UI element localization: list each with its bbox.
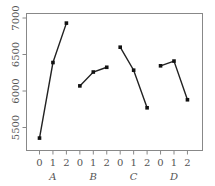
x-tick-label: 1	[90, 157, 96, 168]
y-tick-label: 6500	[10, 42, 21, 67]
x-tick-label: 1	[50, 157, 56, 168]
y-tick-label: 6000	[10, 78, 21, 103]
series-line-A	[40, 23, 67, 138]
y-tick-label: 5500	[10, 115, 21, 140]
series-line-C	[120, 47, 147, 108]
group-label: C	[130, 171, 138, 182]
data-point	[65, 21, 69, 25]
y-axis: 5500600065007000	[10, 5, 27, 140]
series-layer	[38, 21, 190, 140]
x-tick-label: 0	[117, 157, 123, 168]
x-tick-label: 2	[184, 157, 190, 168]
data-point	[105, 65, 109, 69]
x-tick-label: 1	[130, 157, 136, 168]
x-tick-label: 2	[63, 157, 69, 168]
x-tick-label: 0	[77, 157, 83, 168]
data-point	[78, 84, 82, 88]
series-line-B	[80, 67, 107, 86]
data-point	[132, 68, 136, 72]
data-point	[186, 98, 190, 102]
group-label: D	[169, 171, 178, 182]
x-tick-label: 2	[104, 157, 110, 168]
data-point	[145, 106, 149, 110]
series-line-D	[161, 61, 188, 100]
y-tick-label: 7000	[10, 5, 21, 30]
data-point	[118, 45, 122, 49]
x-axis: 012A012B012C012D	[36, 151, 190, 182]
group-label: B	[89, 171, 97, 182]
x-tick-label: 0	[36, 157, 42, 168]
data-point	[38, 136, 42, 140]
plot-frame	[27, 14, 203, 151]
data-point	[172, 59, 176, 63]
data-point	[92, 70, 96, 74]
chart: 5500600065007000 012A012B012C012D	[0, 0, 215, 186]
data-point	[51, 61, 55, 65]
x-tick-label: 2	[144, 157, 150, 168]
data-point	[159, 64, 163, 68]
group-label: A	[48, 171, 56, 182]
x-tick-label: 0	[157, 157, 163, 168]
x-tick-label: 1	[171, 157, 177, 168]
